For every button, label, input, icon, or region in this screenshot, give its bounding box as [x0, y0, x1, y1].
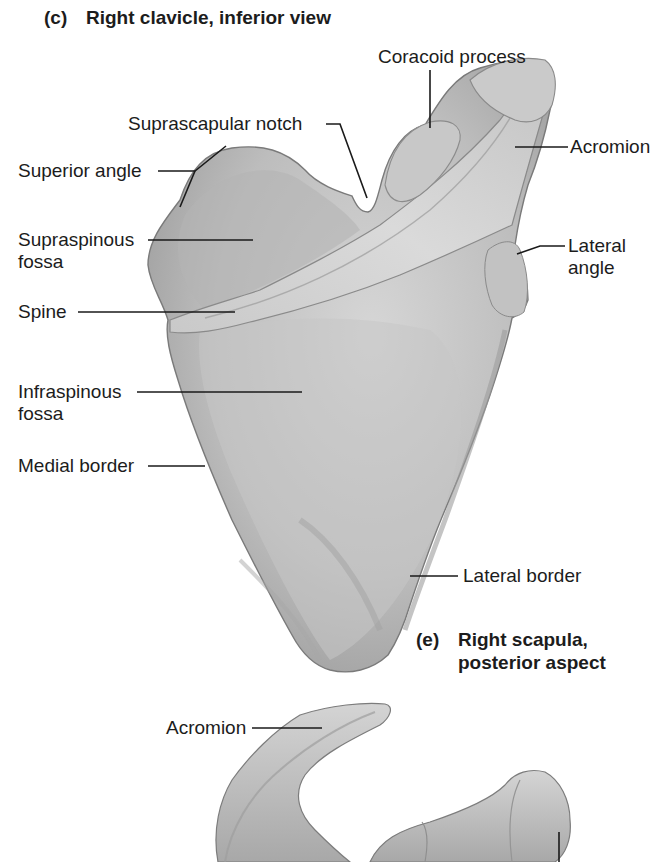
caption-panel-e-line1: Right scapula, — [458, 629, 588, 650]
label-infraspinous-fossa: Infraspinous fossa — [18, 381, 122, 425]
infraspinous-shading — [199, 318, 461, 660]
label-coracoid-process: Coracoid process — [378, 46, 526, 68]
caption-panel-c: (c)Right clavicle, inferior view — [44, 6, 331, 29]
leader-lateral-angle — [517, 246, 565, 254]
label-acromion-lower: Acromion — [166, 717, 246, 739]
caption-panel-c-tag: (c) — [44, 6, 86, 29]
label-spine: Spine — [18, 301, 67, 323]
label-acromion-upper: Acromion — [570, 136, 650, 158]
label-lateral-angle: Lateral angle — [568, 235, 626, 279]
scapula-illustration — [0, 0, 660, 862]
caption-panel-e-line2: posterior aspect — [416, 651, 606, 674]
caption-panel-e: (e)Right scapula, posterior aspect — [416, 628, 606, 674]
label-medial-border: Medial border — [18, 455, 134, 477]
label-lateral-angle-line1: Lateral — [568, 235, 626, 257]
anatomy-figure: (c)Right clavicle, inferior view Coracoi… — [0, 0, 660, 862]
label-supraspinous-fossa: Supraspinous fossa — [18, 229, 134, 273]
label-infraspinous-fossa-line1: Infraspinous — [18, 381, 122, 403]
caption-panel-e-tag: (e) — [416, 628, 458, 651]
leader-suprascapular-notch — [326, 124, 367, 198]
label-suprascapular-notch: Suprascapular notch — [128, 113, 302, 135]
caption-panel-c-text: Right clavicle, inferior view — [86, 7, 331, 28]
lower-coracoid — [370, 771, 570, 862]
label-infraspinous-fossa-line2: fossa — [18, 403, 122, 425]
label-superior-angle: Superior angle — [18, 160, 142, 182]
label-lateral-border: Lateral border — [463, 565, 581, 587]
label-supraspinous-fossa-line1: Supraspinous — [18, 229, 134, 251]
label-supraspinous-fossa-line2: fossa — [18, 251, 134, 273]
label-lateral-angle-line2: angle — [568, 257, 626, 279]
